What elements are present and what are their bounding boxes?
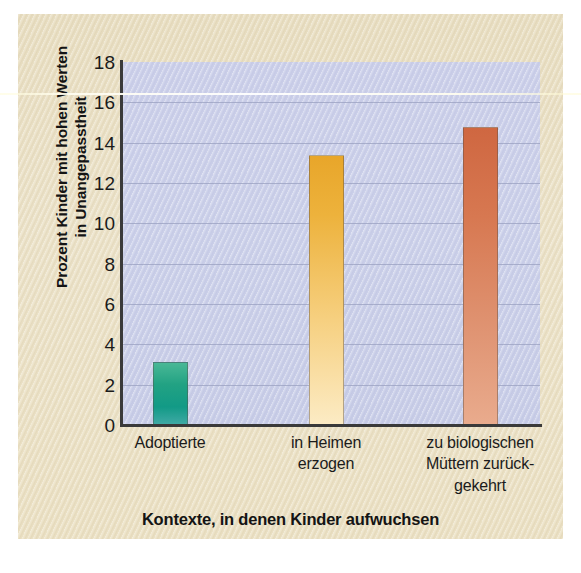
plot-area [122,62,540,425]
y-axis-title: Prozent Kinder mit hohen Wertenin Unange… [53,17,91,317]
y-axis-tick-label: 12 [94,174,115,193]
y-axis-line [120,60,123,427]
y-axis-tick-label: 4 [104,335,115,354]
y-axis-tick-label: 8 [104,254,115,273]
scanned-figure-page: 024681012141618 Adoptiertein Heimenerzog… [0,0,581,573]
x-axis-category-label-line: zu biologischen [370,432,581,453]
x-axis-title: Kontexte, in denen Kinder aufwuchsen [0,510,581,529]
gridline [122,102,540,103]
y-axis-tick-label: 14 [94,133,115,152]
scan-artifact-line [0,93,581,95]
y-axis-tick-label: 16 [94,93,115,112]
y-axis-tick-label: 6 [104,295,115,314]
x-axis-category-label-line: Müttern zurück- [370,453,581,474]
bar [153,362,188,425]
y-axis-title-line: Prozent Kinder mit hohen Werten [53,17,72,317]
x-axis-line [120,424,542,427]
y-axis-tick-label: 2 [104,375,115,394]
y-axis-tick-label: 10 [94,214,115,233]
y-axis-tick-label: 18 [94,53,115,72]
bar [463,127,498,425]
x-axis-category-label: zu biologischenMüttern zurück-gekehrt [370,432,581,496]
x-axis-category-label-line: gekehrt [370,475,581,496]
bar [309,155,344,425]
y-axis-title-line: in Unangepasstheit [72,17,91,317]
